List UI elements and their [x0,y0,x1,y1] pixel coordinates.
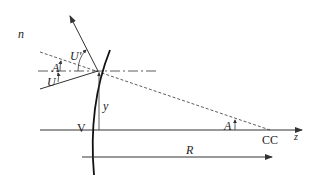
label-CC: CC [262,134,278,146]
label-U-prime: U' [70,50,81,62]
label-U: U [47,76,56,88]
label-V: V [77,122,86,134]
label-n: n [18,28,24,40]
normal-line-dashed [40,52,270,130]
label-A-bottom: A [224,120,231,132]
label-R: R [186,144,193,156]
label-A-top: A [52,62,59,74]
label-y: y [103,100,108,112]
label-z: z [294,132,298,142]
angle-arc-A-top [60,61,61,71]
refraction-diagram [0,0,317,183]
